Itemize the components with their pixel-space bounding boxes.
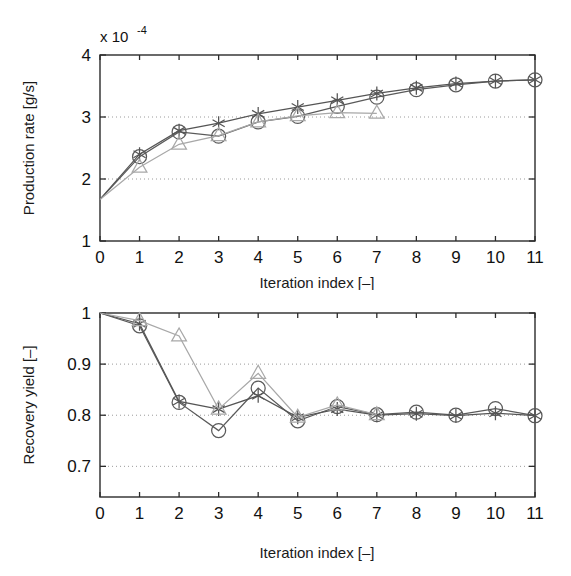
y-tick-label: 0.8	[67, 406, 91, 425]
marker-triangle	[369, 105, 384, 118]
x-tick-label: 10	[486, 504, 505, 523]
x-tick-label: 1	[135, 504, 144, 523]
figure-container: x 10 -4 01234567891011 1234 Production r…	[0, 0, 571, 576]
x-tick-label: 11	[526, 248, 544, 267]
data-point-star	[133, 317, 145, 331]
tickmarks	[100, 313, 535, 497]
x-tick-label: 9	[451, 248, 460, 267]
x-tick-label: 7	[372, 248, 381, 267]
x-tick-label: 0	[95, 504, 104, 523]
x-tick-label: 4	[253, 504, 262, 523]
y-tick-label: 4	[82, 46, 91, 65]
x-tick-label: 6	[333, 248, 342, 267]
x-tick-label: 0	[95, 248, 104, 267]
x-tick-label: 8	[412, 504, 421, 523]
x-tick-label: 7	[372, 504, 381, 523]
y-tick-label: 3	[82, 108, 91, 127]
x-tick-labels: 01234567891011	[95, 504, 544, 523]
x-tick-label: 1	[135, 248, 144, 267]
x-tick-label: 6	[333, 504, 342, 523]
x-tick-label: 3	[214, 248, 223, 267]
x-tick-label: 3	[214, 504, 223, 523]
x-tick-label: 8	[412, 248, 421, 267]
x-tick-label: 2	[174, 248, 183, 267]
x-tick-label: 5	[293, 248, 302, 267]
y-axis-multiplier: x 10 -4	[100, 24, 147, 45]
series-line-star	[100, 313, 535, 417]
data-series-group	[100, 73, 542, 200]
x-tick-label: 10	[486, 248, 505, 267]
x-tick-label: 2	[174, 504, 183, 523]
x-tick-label: 11	[526, 504, 544, 523]
series-line-circle	[100, 80, 535, 200]
y-axis-label: Production rate [g/s]	[20, 81, 37, 215]
gridlines	[100, 117, 535, 179]
marker-triangle	[251, 365, 266, 378]
x-tick-label: 5	[293, 504, 302, 523]
y-tick-labels: 1234	[82, 46, 91, 251]
chart-panel-recovery-yield: 01234567891011 0.70.80.91 Recovery yield…	[0, 290, 571, 576]
chart-panel-production-rate: x 10 -4 01234567891011 1234 Production r…	[0, 0, 571, 290]
data-series-group	[100, 313, 542, 438]
plot-frame	[100, 313, 535, 497]
y-tick-labels: 0.70.80.91	[67, 304, 91, 476]
x-axis-label: Iteration index [–]	[259, 274, 374, 290]
marker-asterisk	[133, 317, 145, 331]
recovery-yield-svg: 01234567891011 0.70.80.91 Recovery yield…	[0, 290, 571, 576]
x-tick-label: 4	[253, 248, 262, 267]
x-axis-label: Iteration index [–]	[259, 544, 374, 561]
data-point-triangle	[369, 105, 384, 118]
y-tick-label: 2	[82, 170, 91, 189]
production-rate-svg: x 10 -4 01234567891011 1234 Production r…	[0, 0, 571, 290]
series-line-star	[100, 80, 535, 200]
x-tick-label: 9	[451, 504, 460, 523]
y-axis-label: Recovery yield [–]	[20, 345, 37, 464]
data-point-triangle	[251, 365, 266, 378]
y-tick-label: 1	[82, 232, 91, 251]
multiplier-text: x 10	[100, 28, 128, 45]
y-tick-label: 0.9	[67, 355, 91, 374]
y-tick-label: 0.7	[67, 457, 91, 476]
x-tick-labels: 01234567891011	[95, 248, 544, 267]
y-tick-label: 1	[82, 304, 91, 323]
multiplier-exponent: -4	[137, 24, 147, 36]
